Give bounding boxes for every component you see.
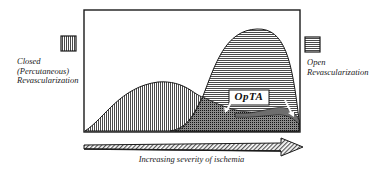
opta-label: OpTA <box>229 90 269 102</box>
x-axis-label: Increasing severity of ischemia <box>0 155 383 165</box>
legend-closed-label: Closed (Percutaneous) Revascularization <box>17 57 78 86</box>
legend-open-line-2: Revascularization <box>307 68 368 78</box>
legend-closed-swatch <box>61 36 76 51</box>
diagram-canvas <box>0 0 383 174</box>
legend-open-label: Open Revascularization <box>307 58 368 77</box>
legend-closed-line-3: Revascularization <box>17 76 78 86</box>
legend-open-swatch <box>305 37 320 52</box>
